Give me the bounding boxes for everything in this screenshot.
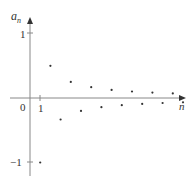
data-point bbox=[172, 92, 174, 94]
data-point bbox=[131, 90, 133, 92]
y-axis-arrow-icon bbox=[27, 17, 33, 24]
data-points bbox=[39, 65, 184, 164]
y-axis-label: an bbox=[11, 9, 21, 25]
data-point bbox=[90, 86, 92, 88]
data-point bbox=[70, 81, 72, 83]
sequence-plot: an 1 −1 0 1 n bbox=[0, 0, 195, 182]
data-point bbox=[162, 102, 164, 104]
data-point bbox=[141, 103, 143, 105]
x-axis-label: n bbox=[179, 100, 185, 112]
data-point bbox=[80, 110, 82, 112]
data-point bbox=[151, 92, 153, 94]
data-point bbox=[100, 106, 102, 108]
data-point bbox=[60, 118, 62, 120]
y-tick-label-neg1: −1 bbox=[10, 156, 22, 168]
data-point bbox=[49, 65, 51, 67]
data-point bbox=[39, 161, 41, 163]
y-tick-label-1: 1 bbox=[20, 28, 26, 40]
x-tick-label-1: 1 bbox=[38, 102, 44, 114]
data-point bbox=[111, 89, 113, 91]
origin-label: 0 bbox=[20, 101, 26, 113]
data-point bbox=[121, 104, 123, 106]
data-point bbox=[182, 101, 184, 103]
